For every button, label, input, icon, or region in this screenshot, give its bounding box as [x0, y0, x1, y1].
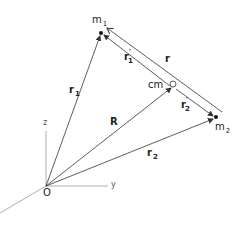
mass-2-point [214, 115, 218, 119]
diagram-svg [0, 0, 242, 227]
label-m1: m1 [92, 15, 107, 25]
x-axis [0, 186, 46, 213]
vector-r2 [46, 119, 213, 186]
label-cm: cm [148, 80, 163, 90]
label-axis-y: y [111, 181, 116, 189]
label-r: r [165, 54, 170, 64]
vector-r1 [46, 36, 100, 186]
cm-diagram: m1 m2 r r′1 r′2 r1 r2 R cm O z y [0, 0, 242, 227]
label-origin: O [43, 188, 51, 198]
label-r1-prime: r′1 [124, 52, 133, 62]
label-r2: r2 [147, 148, 158, 158]
label-axis-z: z [43, 119, 47, 127]
label-r2-prime: r′2 [181, 100, 190, 110]
vector-r [107, 28, 222, 112]
label-m2: m2 [215, 122, 230, 132]
label-r1: r1 [69, 85, 80, 95]
label-R: R [110, 117, 118, 127]
axes [0, 131, 108, 213]
cm-point [170, 81, 176, 87]
mass-1-point [99, 31, 103, 35]
vector-R [46, 88, 171, 186]
